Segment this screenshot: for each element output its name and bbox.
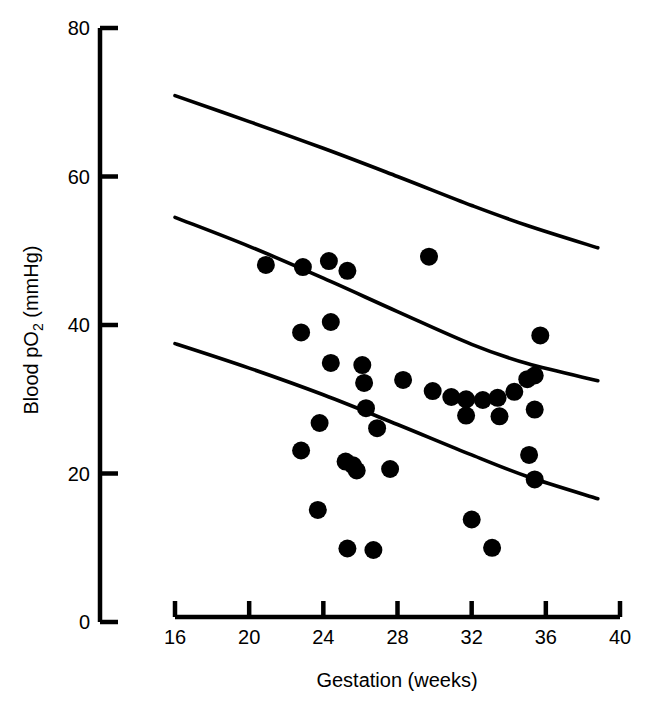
data-point <box>520 446 538 464</box>
y-axis-title-prefix: Blood pO <box>20 331 42 414</box>
x-tick-label-40: 40 <box>609 626 631 648</box>
y-tick-label-20: 20 <box>68 463 90 485</box>
y-axis-ticks <box>100 28 118 622</box>
y-tick-label-0: 0 <box>79 611 90 633</box>
data-point <box>457 407 475 425</box>
y-tick-label-80: 80 <box>68 17 90 39</box>
data-point <box>526 470 544 488</box>
data-point <box>526 401 544 419</box>
data-point <box>338 262 356 280</box>
data-point <box>294 258 312 276</box>
x-tick-label-32: 32 <box>461 626 483 648</box>
data-point <box>457 390 475 408</box>
y-axis: 020406080 <box>68 17 118 633</box>
data-point <box>320 252 338 270</box>
data-point <box>491 407 509 425</box>
upper-reference-curve <box>175 96 598 248</box>
y-axis-title-suffix: (mmHg) <box>20 246 42 324</box>
y-tick-label-60: 60 <box>68 166 90 188</box>
x-axis-title: Gestation (weeks) <box>316 669 477 691</box>
data-point <box>353 356 371 374</box>
x-tick-label-24: 24 <box>312 626 334 648</box>
y-axis-title: Blood pO2 (mmHg) <box>20 246 46 415</box>
x-axis-tick-labels: 16202428323640 <box>164 626 631 648</box>
data-point <box>381 460 399 478</box>
data-point <box>394 371 412 389</box>
data-point <box>364 541 382 559</box>
plot-canvas: 020406080 16202428323640 Blood pO2 (mmHg… <box>0 0 648 705</box>
x-axis: 16202428323640 <box>164 601 631 648</box>
x-tick-label-16: 16 <box>164 626 186 648</box>
data-point <box>526 367 544 385</box>
data-point <box>292 323 310 341</box>
data-point <box>309 501 327 519</box>
data-point <box>505 383 523 401</box>
x-tick-label-28: 28 <box>386 626 408 648</box>
y-axis-title-subscript: 2 <box>30 323 46 331</box>
data-point <box>348 462 366 480</box>
data-point <box>357 399 375 417</box>
scatter-points-group <box>257 248 549 559</box>
data-point <box>483 539 501 557</box>
y-axis-tick-labels: 020406080 <box>68 17 90 633</box>
middle-reference-curve <box>175 217 598 380</box>
data-point <box>368 419 386 437</box>
x-tick-label-20: 20 <box>238 626 260 648</box>
data-point <box>292 442 310 460</box>
data-point <box>257 256 275 274</box>
reference-curves-group <box>175 96 598 499</box>
scatter-plot-figure: 020406080 16202428323640 Blood pO2 (mmHg… <box>0 0 648 705</box>
data-point <box>355 374 373 392</box>
data-point <box>420 248 438 266</box>
data-point <box>322 313 340 331</box>
x-tick-label-36: 36 <box>535 626 557 648</box>
data-point <box>463 511 481 529</box>
data-point <box>338 540 356 558</box>
data-point <box>311 414 329 432</box>
svg-text:Blood pO2 (mmHg): Blood pO2 (mmHg) <box>20 246 46 415</box>
y-tick-label-40: 40 <box>68 314 90 336</box>
data-point <box>531 326 549 344</box>
x-axis-ticks <box>175 601 620 617</box>
data-point <box>424 382 442 400</box>
data-point <box>489 389 507 407</box>
data-point <box>322 354 340 372</box>
